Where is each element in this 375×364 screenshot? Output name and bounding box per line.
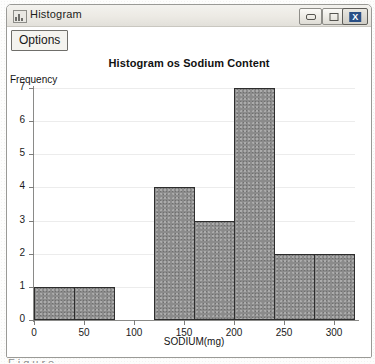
close-button[interactable]: X xyxy=(342,8,368,25)
y-axis-tick: 3 xyxy=(29,221,34,222)
y-axis-tick-label: 7 xyxy=(19,81,25,92)
histogram-bar xyxy=(74,287,115,320)
minimize-icon xyxy=(306,14,316,20)
y-axis-tick-label: 6 xyxy=(19,114,25,125)
histogram-chart: Histogram os Sodium Content Frequency 01… xyxy=(7,55,371,357)
window-title: Histogram xyxy=(30,8,82,20)
y-axis-tick: 5 xyxy=(29,154,34,155)
x-axis-tick xyxy=(84,320,85,325)
x-axis-line xyxy=(31,320,359,321)
close-icon: X xyxy=(349,12,361,22)
y-axis-tick: 2 xyxy=(29,254,34,255)
x-axis-tick xyxy=(334,320,335,325)
histogram-bar xyxy=(154,187,195,320)
y-axis-tick: 4 xyxy=(29,187,34,188)
y-axis-tick-label: 2 xyxy=(19,247,25,258)
histogram-bar xyxy=(234,88,275,320)
y-axis-tick-label: 0 xyxy=(19,313,25,324)
gridline xyxy=(34,121,355,122)
window-title-bar[interactable]: Histogram X xyxy=(7,5,371,27)
y-axis-tick-label: 3 xyxy=(19,214,25,225)
plot-area: 01234567 050100150200250300 xyxy=(33,88,355,320)
y-axis-tick-label: 5 xyxy=(19,147,25,158)
histogram-bar xyxy=(34,287,75,320)
y-axis-tick: 6 xyxy=(29,121,34,122)
histogram-bar xyxy=(274,254,315,320)
gridline xyxy=(34,154,355,155)
y-axis-tick-label: 4 xyxy=(19,180,25,191)
histogram-bar xyxy=(314,254,355,320)
options-button[interactable]: Options xyxy=(11,30,68,51)
x-axis-tick xyxy=(284,320,285,325)
histogram-app-icon xyxy=(13,10,27,23)
minimize-button[interactable] xyxy=(299,8,322,25)
x-axis-tick xyxy=(134,320,135,325)
x-axis-tick xyxy=(184,320,185,325)
page-caption-artifact: Figure 2-7 b xyxy=(8,358,78,363)
gridline xyxy=(34,88,355,89)
histogram-bar xyxy=(194,221,235,320)
chart-title: Histogram os Sodium Content xyxy=(7,57,371,69)
toolbar: Options xyxy=(7,27,371,55)
y-axis-tick: 7 xyxy=(29,88,34,89)
y-axis-tick-label: 1 xyxy=(19,280,25,291)
histogram-window: Histogram X Options Histogram os Sodium … xyxy=(6,4,372,358)
maximize-icon xyxy=(329,13,338,21)
x-axis-label: SODIUM(mg) xyxy=(33,336,355,347)
x-axis-tick xyxy=(234,320,235,325)
x-axis-tick xyxy=(34,320,35,325)
y-axis-label: Frequency xyxy=(10,74,57,85)
